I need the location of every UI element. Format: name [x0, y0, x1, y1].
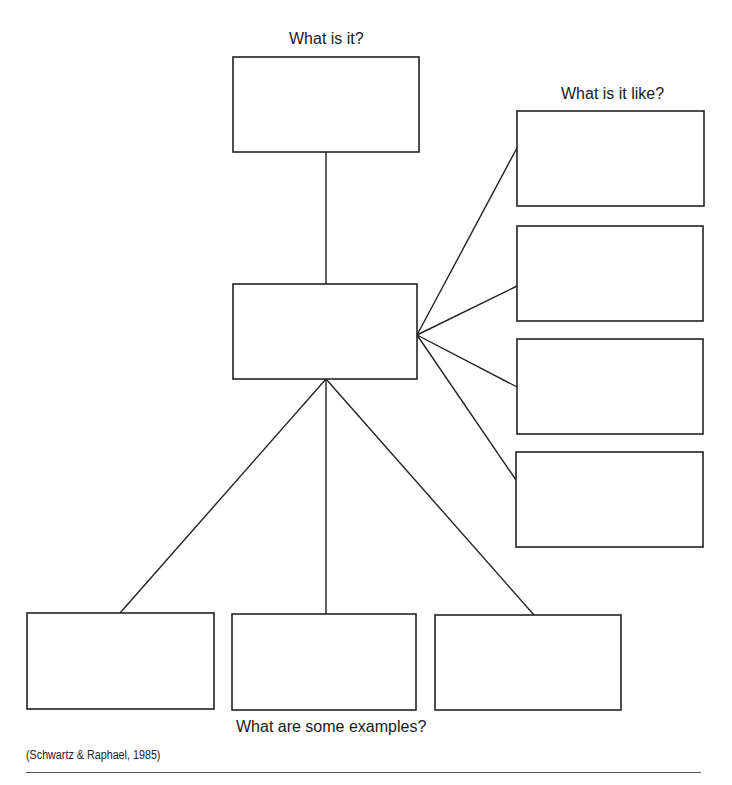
connector-property-2 [417, 286, 517, 335]
property-box-2 [517, 226, 703, 321]
example-box-3 [435, 615, 621, 710]
what-is-it-like-label: What is it like? [561, 85, 664, 103]
connector-lines [120, 148, 534, 615]
concept-box [233, 284, 417, 379]
definition-box [233, 57, 419, 152]
concept-map-diagram [0, 0, 732, 785]
connector-example-3 [326, 379, 534, 615]
examples-label: What are some examples? [236, 718, 426, 736]
connector-property-4 [417, 335, 516, 480]
what-is-it-label: What is it? [289, 30, 364, 48]
property-box-1 [517, 111, 704, 206]
example-box-1 [27, 613, 214, 709]
example-box-2 [232, 614, 416, 710]
property-box-3 [517, 339, 703, 434]
citation: (Schwartz & Raphael, 1985) [26, 748, 160, 763]
connector-property-3 [417, 335, 517, 387]
connector-example-1 [120, 379, 326, 613]
property-box-4 [516, 452, 703, 547]
concept-boxes [27, 57, 704, 710]
footer-divider [26, 772, 701, 773]
connector-property-1 [417, 148, 517, 335]
